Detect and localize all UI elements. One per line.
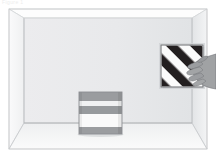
watermark-text: Figure 1 xyxy=(2,0,24,5)
box-band-bottom-dark xyxy=(79,127,122,134)
striped-box-on-floor[interactable] xyxy=(78,92,124,137)
scene-stage: Figure 1 xyxy=(0,0,216,158)
box-band-top-dark xyxy=(79,92,122,101)
box-right-shading xyxy=(118,92,122,134)
ceiling-surface xyxy=(9,9,207,18)
room-scene-illustration xyxy=(0,0,216,158)
box-band-light-1 xyxy=(79,101,122,106)
box-band-mid-dark xyxy=(79,106,122,114)
box-band-light-2 xyxy=(79,114,122,127)
